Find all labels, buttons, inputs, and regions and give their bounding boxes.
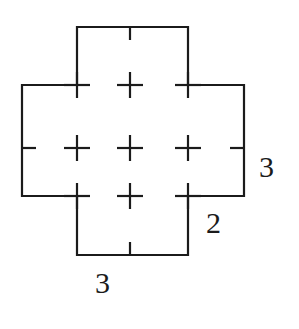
figure-canvas: 3 2 3 [0,0,299,329]
side-length-label-bottom: 3 [95,268,110,298]
plus-mark [117,135,143,161]
plus-polyomino-diagram [0,0,299,329]
plus-mark [64,135,90,161]
plus-mark [117,72,143,98]
plus-mark [175,72,201,98]
plus-mark [64,183,90,209]
plus-mark [64,72,90,98]
grid-plus-marks [64,72,201,209]
side-length-label-lower-right: 2 [206,208,221,238]
plus-mark [175,183,201,209]
plus-mark [175,135,201,161]
side-length-label-right: 3 [259,152,274,182]
plus-mark [117,183,143,209]
